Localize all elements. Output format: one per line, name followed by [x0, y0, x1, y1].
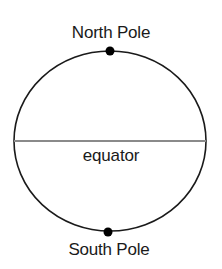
south-pole-dot	[104, 228, 113, 237]
south-pole-label: South Pole	[0, 240, 220, 260]
equator-label: equator	[0, 146, 222, 166]
north-pole-label: North Pole	[0, 23, 222, 43]
north-pole-dot	[106, 47, 115, 56]
